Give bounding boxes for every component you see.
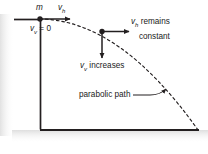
remains-word: remains <box>138 17 169 26</box>
vv-value: = 0 <box>37 24 51 33</box>
constant-word: constant <box>131 31 170 42</box>
mass-label: m <box>36 3 43 13</box>
horizontal-constant-note: vh remainsconstant <box>131 16 170 42</box>
left-page-shadow <box>0 14 14 136</box>
parabolic-dashed-trajectory <box>40 19 198 130</box>
projectile-motion-figure: m vh vv = 0 vh remainsconstant vv increa… <box>0 0 208 154</box>
vertical-increase-note: vv increases <box>80 61 124 74</box>
parabolic-path-label: parabolic path <box>79 90 130 100</box>
vh-subscript: h <box>62 8 65 14</box>
horizontal-velocity-label: vh <box>58 3 65 16</box>
parabolic-path-leader-line <box>133 89 166 95</box>
increases-word: increases <box>87 61 124 70</box>
bottom-page-shadow <box>12 130 208 143</box>
initial-vertical-velocity-label: vv = 0 <box>30 24 51 37</box>
